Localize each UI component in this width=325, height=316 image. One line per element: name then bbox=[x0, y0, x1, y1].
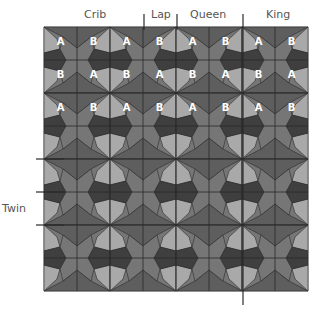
block-label: B bbox=[90, 36, 98, 47]
block-label: B bbox=[189, 69, 197, 80]
size-label-twin: Twin bbox=[2, 202, 26, 215]
block-label: B bbox=[123, 69, 131, 80]
block-label: A bbox=[123, 36, 131, 47]
block-label: B bbox=[57, 69, 65, 80]
size-label-lap: Lap bbox=[151, 8, 171, 21]
block-label: A bbox=[222, 69, 230, 80]
block-label: A bbox=[255, 102, 263, 113]
block-label: A bbox=[189, 102, 197, 113]
block-label: A bbox=[57, 102, 65, 113]
block-label: A bbox=[123, 102, 131, 113]
block-label: B bbox=[222, 102, 230, 113]
size-label-queen: Queen bbox=[190, 8, 226, 21]
block-label: A bbox=[189, 36, 197, 47]
size-label-king: King bbox=[266, 8, 290, 21]
block-label: A bbox=[156, 69, 164, 80]
block-label: A bbox=[90, 69, 98, 80]
block-label: B bbox=[156, 102, 164, 113]
size-label-crib: Crib bbox=[84, 8, 106, 21]
block-label: A bbox=[288, 69, 296, 80]
block-label: B bbox=[222, 36, 230, 47]
block-label: B bbox=[255, 69, 263, 80]
block-label: A bbox=[255, 36, 263, 47]
block-label: B bbox=[156, 36, 164, 47]
block-label: B bbox=[288, 102, 296, 113]
block-label: A bbox=[57, 36, 65, 47]
block-label: B bbox=[90, 102, 98, 113]
block-label: B bbox=[288, 36, 296, 47]
quilt-diagram: ABABABABBABABABAABABABAB bbox=[0, 0, 325, 316]
